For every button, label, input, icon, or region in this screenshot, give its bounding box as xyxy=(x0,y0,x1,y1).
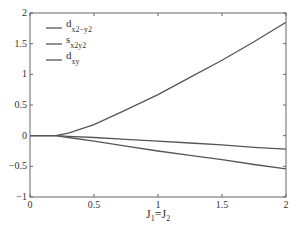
legend-label: dx2−y2 xyxy=(66,17,92,34)
y-tick-label: 1.5 xyxy=(15,38,28,49)
legend-label: dxy xyxy=(66,49,80,66)
legend: dx2−y2sx2y2dxy xyxy=(46,17,92,66)
line-chart: 21.510.50−0.5−1 00.511.52 dx2−y2sx2y2dxy… xyxy=(0,0,300,229)
y-tick-label: −0.5 xyxy=(9,160,27,171)
y-tick-label: 0 xyxy=(22,130,27,141)
x-tick-label: 1.5 xyxy=(216,199,229,210)
x-tick-label: 0 xyxy=(28,199,33,210)
y-tick-label: 2 xyxy=(22,7,27,18)
y-tick-label: −1 xyxy=(16,191,27,202)
x-tick-label: 2 xyxy=(284,199,289,210)
legend-label: sx2y2 xyxy=(66,33,86,50)
y-tick-label: 0.5 xyxy=(15,99,28,110)
x-tick-label: 0.5 xyxy=(88,199,101,210)
x-axis-label: J1=J2 xyxy=(146,207,170,223)
y-tick-label: 1 xyxy=(22,68,27,79)
y-axis-ticks: 21.510.50−0.5−1 xyxy=(9,7,286,202)
